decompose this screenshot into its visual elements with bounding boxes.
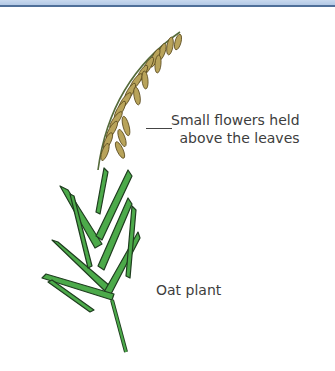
plant-name-label: Oat plant (156, 281, 221, 299)
flowers-label-line2: above the leaves (171, 129, 300, 147)
oat-plant-illustration (0, 0, 335, 371)
label-leader-line (146, 128, 172, 129)
flowers-label: Small flowers held above the leaves (171, 111, 300, 147)
flowers-label-line1: Small flowers held (171, 111, 300, 129)
leaves (42, 168, 140, 312)
